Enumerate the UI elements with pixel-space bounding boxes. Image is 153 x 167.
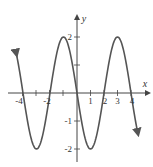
x-axis-label: x xyxy=(142,78,148,89)
chart: -4 -2 1 2 3 4 2 -1 -2 x y xyxy=(0,0,153,167)
x-tick-label: -2 xyxy=(43,96,51,106)
y-axis-label: y xyxy=(81,13,87,24)
x-tick-label: 1 xyxy=(88,96,93,106)
y-tick-label: -1 xyxy=(65,116,73,126)
y-tick-label: 2 xyxy=(68,32,73,42)
y-tick-label: -2 xyxy=(65,144,73,154)
x-tick-label: -4 xyxy=(15,96,23,106)
x-tick-label: 3 xyxy=(115,96,120,106)
x-tick-label: 4 xyxy=(130,96,135,106)
x-tick-label: 2 xyxy=(103,96,108,106)
